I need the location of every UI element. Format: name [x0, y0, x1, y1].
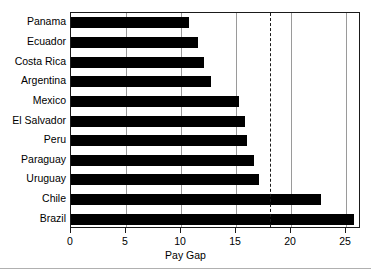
bar [71, 76, 211, 87]
y-axis-label: Chile [0, 193, 66, 204]
y-axis-category-labels: PanamaEcuadorCosta RicaArgentinaMexicoEl… [0, 12, 66, 228]
y-axis-label: Panama [0, 16, 66, 27]
x-axis-tick-mark [125, 228, 126, 233]
y-axis-label: Costa Rica [0, 56, 66, 67]
x-axis-tick-mark [180, 228, 181, 233]
x-axis-tick-mark [70, 228, 71, 233]
x-axis-tick-label: 0 [50, 235, 90, 247]
bar [71, 17, 189, 28]
y-axis-label: Mexico [0, 95, 66, 106]
bar [71, 155, 254, 166]
x-axis-tick-label: 10 [160, 235, 200, 247]
x-axis-tick-label: 25 [325, 235, 365, 247]
bar [71, 96, 239, 107]
bars-group [71, 13, 359, 227]
x-axis-tick-label: 20 [270, 235, 310, 247]
bar [71, 116, 245, 127]
x-axis-title: Pay Gap [0, 249, 371, 261]
y-axis-label: Peru [0, 134, 66, 145]
x-axis-tick-label: 15 [215, 235, 255, 247]
bar [71, 174, 259, 185]
y-axis-label: Ecuador [0, 36, 66, 47]
bar [71, 57, 204, 68]
x-axis-tick-label: 5 [105, 235, 145, 247]
bottom-divider [0, 268, 371, 269]
chart-figure: PanamaEcuadorCosta RicaArgentinaMexicoEl… [0, 0, 371, 276]
x-axis-tick-mark [290, 228, 291, 233]
x-axis-tick-mark [345, 228, 346, 233]
bar [71, 37, 198, 48]
y-axis-label: Brazil [0, 213, 66, 224]
x-axis-tick-mark [235, 228, 236, 233]
bar [71, 194, 321, 205]
bar [71, 135, 247, 146]
y-axis-label: Argentina [0, 75, 66, 86]
reference-line [270, 13, 271, 227]
y-axis-label: Uruguay [0, 173, 66, 184]
y-axis-label: El Salvador [0, 115, 66, 126]
plot-area [70, 12, 360, 228]
bar [71, 214, 354, 225]
y-axis-label: Paraguay [0, 154, 66, 165]
